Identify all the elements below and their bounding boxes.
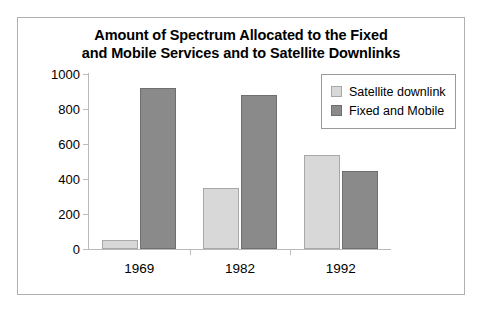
legend-swatch-icon-satellite-downlink: [331, 86, 342, 97]
y-axis-tick: [83, 249, 89, 250]
y-axis-tick: [83, 109, 89, 110]
y-axis-tick-label: 800: [34, 102, 80, 117]
chart-title-line-1: Amount of Spectrum Allocated to the Fixe…: [18, 26, 464, 44]
x-axis-tick: [290, 249, 291, 255]
legend-label-satellite-downlink: Satellite downlink: [349, 85, 446, 99]
bar: [102, 240, 138, 249]
legend-label-fixed-and-mobile: Fixed and Mobile: [349, 104, 444, 118]
y-axis-tick: [83, 214, 89, 215]
y-axis-tick-label: 1000: [34, 67, 80, 82]
x-axis-line: [88, 249, 391, 250]
chart-title-line-2: and Mobile Services and to Satellite Dow…: [18, 44, 464, 62]
chart-title: Amount of Spectrum Allocated to the Fixe…: [18, 26, 464, 62]
y-axis-tick-label: 400: [34, 172, 80, 187]
y-axis-tick-label: 600: [34, 137, 80, 152]
legend-swatch-icon-fixed-and-mobile: [331, 105, 342, 116]
y-axis-tick: [83, 74, 89, 75]
bar: [241, 95, 277, 249]
bar: [203, 188, 239, 249]
y-axis-tick: [83, 144, 89, 145]
y-axis-tick-label: 0: [34, 242, 80, 257]
y-axis-labels: 10008006004002000: [26, 18, 80, 296]
bar: [304, 155, 340, 250]
x-axis-tick: [190, 249, 191, 255]
bar: [342, 171, 378, 249]
y-axis-tick: [83, 179, 89, 180]
x-axis-tick-label: 1992: [296, 261, 386, 276]
chart-legend: Satellite downlink Fixed and Mobile: [321, 74, 456, 129]
legend-item-fixed-and-mobile: Fixed and Mobile: [331, 101, 447, 120]
x-axis-tick-label: 1982: [195, 261, 285, 276]
x-axis-tick-label: 1969: [94, 261, 184, 276]
y-axis-tick-label: 200: [34, 207, 80, 222]
bar: [140, 88, 176, 249]
chart-frame: Amount of Spectrum Allocated to the Fixe…: [17, 17, 465, 295]
legend-item-satellite-downlink: Satellite downlink: [331, 82, 447, 101]
